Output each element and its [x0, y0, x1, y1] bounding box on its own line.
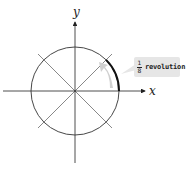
- fraction: 1 8: [137, 60, 142, 74]
- callout-label: 1 8 revolution: [134, 57, 180, 77]
- fraction-denominator: 8: [138, 68, 142, 74]
- callout-text: revolution: [145, 63, 185, 71]
- unit-circle-diagram: y x: [0, 0, 188, 169]
- fraction-numerator: 1: [138, 60, 142, 66]
- x-axis-label: x: [149, 84, 156, 98]
- y-axis-label: y: [72, 5, 80, 19]
